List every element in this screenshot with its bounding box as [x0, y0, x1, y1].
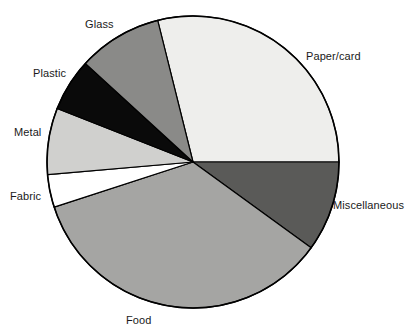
pie-label-food: Food — [126, 314, 151, 327]
pie-label-fabric: Fabric — [10, 190, 41, 203]
pie-slice-group — [47, 16, 339, 308]
pie-label-metal: Metal — [14, 126, 41, 139]
pie-label-paper-card: Paper/card — [306, 50, 361, 63]
pie-label-plastic: Plastic — [33, 67, 66, 80]
pie-label-glass: Glass — [85, 18, 114, 31]
pie-chart-figure: Glass Paper/card Plastic Metal Fabric Mi… — [0, 0, 418, 335]
pie-label-miscellaneous: Miscellaneous — [333, 199, 404, 212]
